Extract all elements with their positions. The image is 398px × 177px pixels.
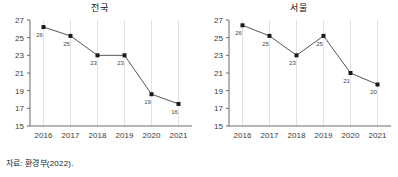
data-point-label: 25 bbox=[316, 41, 323, 47]
x-tick-label: 2016 bbox=[234, 131, 252, 140]
y-tick-label: 27 bbox=[214, 16, 223, 25]
data-point-label: 26 bbox=[36, 32, 43, 38]
y-tick-label: 15 bbox=[214, 122, 223, 131]
data-point-label: 21 bbox=[343, 78, 350, 84]
x-tick-label: 2017 bbox=[261, 131, 279, 140]
data-point-label: 20 bbox=[370, 89, 377, 95]
y-tick-label: 21 bbox=[15, 69, 24, 78]
data-point-marker bbox=[123, 53, 127, 57]
y-tick-label: 23 bbox=[214, 51, 223, 60]
y-tick-label: 27 bbox=[15, 16, 24, 25]
x-tick-label: 2017 bbox=[62, 131, 80, 140]
x-tick-label: 2020 bbox=[342, 131, 360, 140]
y-tick-label: 23 bbox=[15, 51, 24, 60]
data-point-marker bbox=[96, 53, 100, 57]
data-point-marker bbox=[42, 25, 46, 29]
data-point-marker bbox=[150, 92, 154, 96]
y-tick-label: 25 bbox=[214, 34, 223, 43]
data-point-marker bbox=[376, 82, 380, 86]
data-point-marker bbox=[322, 34, 326, 38]
y-tick-label: 17 bbox=[214, 104, 223, 113]
y-tick-label: 21 bbox=[214, 69, 223, 78]
y-tick-label: 19 bbox=[214, 87, 223, 96]
data-point-marker bbox=[69, 34, 73, 38]
data-line bbox=[44, 27, 179, 104]
data-point-marker bbox=[349, 71, 353, 75]
x-tick-label: 2021 bbox=[369, 131, 387, 140]
chart-panels-row: 전국 1517192123252720162017201820192020202… bbox=[0, 0, 398, 155]
chart-panel-seoul: 서울 1517192123252720162017201820192020202… bbox=[199, 0, 398, 155]
chart-title-seoul: 서울 bbox=[199, 2, 398, 14]
y-tick-label: 19 bbox=[15, 87, 24, 96]
figure-two-line-charts: 전국 1517192123252720162017201820192020202… bbox=[0, 0, 398, 177]
data-point-label: 23 bbox=[289, 60, 296, 66]
data-point-label: 23 bbox=[90, 60, 97, 66]
data-point-marker bbox=[268, 34, 272, 38]
x-tick-label: 2020 bbox=[143, 131, 161, 140]
x-tick-label: 2021 bbox=[170, 131, 188, 140]
data-point-label: 19 bbox=[144, 99, 151, 105]
x-tick-label: 2019 bbox=[315, 131, 333, 140]
x-tick-label: 2019 bbox=[116, 131, 134, 140]
data-point-label: 26 bbox=[235, 30, 242, 36]
y-tick-label: 25 bbox=[15, 34, 24, 43]
chart-title-nationwide: 전국 bbox=[0, 2, 199, 14]
line-chart-seoul: 1517192123252720162017201820192020202126… bbox=[199, 14, 398, 155]
data-point-label: 23 bbox=[117, 60, 124, 66]
data-point-marker bbox=[241, 23, 245, 27]
data-line bbox=[243, 25, 378, 84]
x-tick-label: 2016 bbox=[35, 131, 53, 140]
x-tick-label: 2018 bbox=[89, 131, 107, 140]
data-point-label: 25 bbox=[63, 41, 70, 47]
x-tick-label: 2018 bbox=[288, 131, 306, 140]
source-note: 자료: 환경부(2022). bbox=[6, 158, 74, 169]
data-point-label: 16 bbox=[171, 109, 178, 115]
y-tick-label: 15 bbox=[15, 122, 24, 131]
data-point-marker bbox=[295, 53, 299, 57]
chart-panel-nationwide: 전국 1517192123252720162017201820192020202… bbox=[0, 0, 199, 155]
data-point-marker bbox=[177, 102, 181, 106]
line-chart-nationwide: 1517192123252720162017201820192020202126… bbox=[0, 14, 199, 155]
data-point-label: 25 bbox=[262, 41, 269, 47]
y-tick-label: 17 bbox=[15, 104, 24, 113]
